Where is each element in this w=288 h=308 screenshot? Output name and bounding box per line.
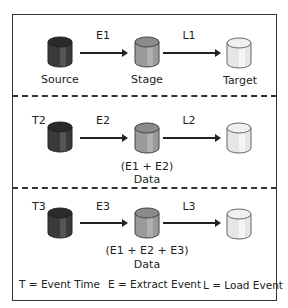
load-arrow — [163, 52, 219, 54]
load-event-label: L3 — [182, 200, 195, 213]
stage-database-icon — [134, 36, 160, 68]
time-label: T3 — [32, 200, 46, 213]
stage-data-label: (E1 + E2 + E3) — [106, 244, 189, 257]
extract-arrow — [80, 137, 126, 139]
legend-extract: E = Extract Event — [108, 278, 201, 291]
stage-label: Stage — [131, 73, 163, 86]
extract-event-label: E1 — [96, 29, 110, 42]
stage-data-caption: Data — [134, 173, 160, 186]
legend-load: L = Load Event — [203, 279, 283, 292]
target-database-icon — [226, 37, 252, 69]
target-database-icon — [226, 122, 252, 154]
stage-data-label: (E1 + E2) — [121, 160, 174, 173]
legend-time: T = Event Time — [19, 278, 100, 291]
target-database-icon — [226, 208, 252, 240]
time-label: T2 — [32, 114, 46, 127]
load-event-label: L2 — [182, 114, 195, 127]
source-database-icon — [47, 121, 73, 153]
source-database-icon — [47, 207, 73, 239]
load-event-label: L1 — [182, 29, 195, 42]
target-label: Target — [223, 74, 257, 87]
row-divider — [12, 187, 277, 189]
stage-data-caption: Data — [134, 258, 160, 271]
stage-database-icon — [134, 207, 160, 239]
extract-event-label: E2 — [96, 114, 110, 127]
source-database-icon — [47, 36, 73, 68]
load-arrow — [163, 222, 219, 224]
row-divider — [12, 95, 277, 97]
extract-arrow — [80, 52, 126, 54]
extract-event-label: E3 — [96, 200, 110, 213]
source-label: Source — [41, 73, 79, 86]
extract-arrow — [80, 222, 126, 224]
load-arrow — [163, 137, 219, 139]
stage-database-icon — [134, 122, 160, 154]
